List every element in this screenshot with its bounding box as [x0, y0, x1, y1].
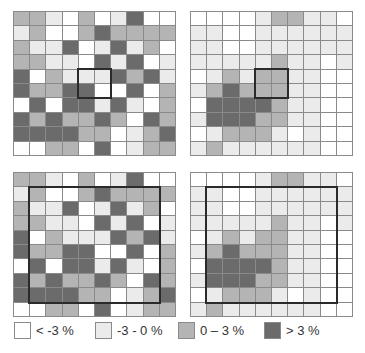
grid-cell	[272, 127, 288, 141]
grid-cell	[256, 98, 272, 112]
grid-cell	[127, 259, 143, 273]
grid-cell	[63, 70, 79, 84]
grid-cell	[223, 41, 239, 55]
grid-cell	[256, 142, 272, 156]
grid-cell	[79, 173, 95, 187]
grid-cell	[14, 173, 30, 187]
grid-cell	[144, 41, 160, 55]
legend-label: < -3 %	[36, 323, 74, 338]
grid-cell	[30, 288, 46, 302]
grid-cell	[63, 288, 79, 302]
grid-cell	[144, 259, 160, 273]
grid-cell	[30, 41, 46, 55]
grid-cell	[304, 127, 320, 141]
grid-cell	[46, 231, 62, 245]
grid-cell	[63, 274, 79, 288]
grid-cell	[191, 274, 207, 288]
grid-cell	[272, 303, 288, 317]
grid-cell	[288, 55, 304, 69]
grid-cell	[207, 216, 223, 230]
grid-cell	[160, 70, 176, 84]
grid-cell	[127, 216, 143, 230]
grid-cell	[127, 84, 143, 98]
legend-swatch-dark	[264, 322, 281, 339]
grid-cell	[111, 142, 127, 156]
grid-cell	[256, 84, 272, 98]
grid-cell	[144, 142, 160, 156]
grid-cell	[30, 84, 46, 98]
grid-cell	[30, 98, 46, 112]
grid-cell	[46, 259, 62, 273]
grid-cell	[127, 288, 143, 302]
grid-cell	[304, 173, 320, 187]
grid-cell	[288, 202, 304, 216]
grid-cell	[223, 303, 239, 317]
grid-cell	[207, 173, 223, 187]
grid-cell	[79, 70, 95, 84]
grid-cell	[111, 216, 127, 230]
grid-cell	[111, 113, 127, 127]
grid-cell	[79, 12, 95, 26]
grid-cell	[144, 288, 160, 302]
grid-cell	[240, 216, 256, 230]
grid-cell	[79, 274, 95, 288]
grid-cell	[288, 187, 304, 201]
grid-cell	[14, 26, 30, 40]
grid-cell	[223, 259, 239, 273]
grid-cell	[337, 113, 353, 127]
grid-cell	[63, 26, 79, 40]
legend-label: > 3 %	[286, 323, 320, 338]
grid-cell	[111, 12, 127, 26]
grid-cell	[79, 26, 95, 40]
grid-cell	[207, 55, 223, 69]
grid-cell	[337, 216, 353, 230]
grid-cell	[111, 26, 127, 40]
grid-cell	[160, 12, 176, 26]
grid-cell	[337, 55, 353, 69]
grid-cell	[30, 142, 46, 156]
grid-cell	[207, 84, 223, 98]
legend-swatch-light	[95, 322, 112, 339]
grid-cell	[160, 127, 176, 141]
grid-cell	[127, 70, 143, 84]
grid-cell	[95, 70, 111, 84]
grid-cell	[191, 12, 207, 26]
grid-cell	[240, 113, 256, 127]
grid-cell	[256, 113, 272, 127]
grid-cell	[95, 12, 111, 26]
grid-cell	[144, 303, 160, 317]
grid-cell	[337, 98, 353, 112]
grid-cell	[240, 231, 256, 245]
grid-cell	[111, 98, 127, 112]
grid-cell	[288, 12, 304, 26]
grid-cell	[272, 41, 288, 55]
grid-cell	[127, 303, 143, 317]
grid-cell	[207, 142, 223, 156]
grid-cell	[240, 142, 256, 156]
grid-cell	[95, 288, 111, 302]
grid-cell	[256, 41, 272, 55]
grid-cell	[337, 288, 353, 302]
grid-cell	[337, 245, 353, 259]
grid-cell	[191, 259, 207, 273]
grid-cell	[288, 231, 304, 245]
grid-cell	[111, 303, 127, 317]
grid-cell	[288, 142, 304, 156]
grid-cell	[127, 142, 143, 156]
grid-cell	[14, 55, 30, 69]
grid-cell	[207, 12, 223, 26]
grid-cell	[79, 259, 95, 273]
grid-cell	[288, 84, 304, 98]
grid-cell	[79, 142, 95, 156]
grid-cell	[321, 187, 337, 201]
grid-cell	[256, 173, 272, 187]
grid-cell	[127, 274, 143, 288]
grid-cell	[63, 187, 79, 201]
grid-cell	[46, 12, 62, 26]
grid-cell	[14, 303, 30, 317]
grid-cell	[63, 127, 79, 141]
grid-cell	[144, 173, 160, 187]
grid-cell	[160, 288, 176, 302]
grid-cell	[95, 98, 111, 112]
grid-cell	[207, 245, 223, 259]
